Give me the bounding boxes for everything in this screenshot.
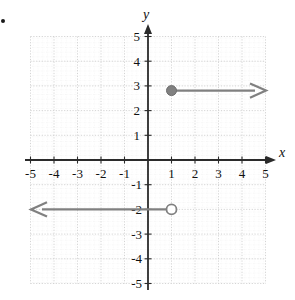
y-tick-label: -5 bbox=[131, 276, 142, 291]
x-tick-label: 4 bbox=[239, 166, 246, 181]
y-tick-label: 1 bbox=[134, 128, 141, 143]
coordinate-plane-chart: -5 -4 -3 -2 -1 1 2 3 4 5 5 4 3 2 1 -1 -2… bbox=[0, 0, 295, 300]
y-tick-label: -3 bbox=[131, 227, 142, 242]
open-endpoint-marker bbox=[167, 204, 177, 214]
y-tick-label: 4 bbox=[134, 54, 141, 69]
x-tick-label: -1 bbox=[119, 166, 130, 181]
x-tick-label: 3 bbox=[215, 166, 222, 181]
x-tick-label: -2 bbox=[96, 166, 107, 181]
x-tick-label: 1 bbox=[168, 166, 175, 181]
y-tick-label: 2 bbox=[134, 103, 141, 118]
x-tick-label: -5 bbox=[25, 166, 36, 181]
y-tick-label: -1 bbox=[131, 177, 142, 192]
x-tick-label: 2 bbox=[192, 166, 199, 181]
x-tick-label: 5 bbox=[262, 166, 269, 181]
y-tick-label: -4 bbox=[131, 251, 142, 266]
x-axis-label: x bbox=[278, 145, 286, 160]
y-tick-label: 5 bbox=[134, 29, 141, 44]
y-tick-label: 3 bbox=[134, 78, 141, 93]
x-tick-label: -4 bbox=[49, 166, 60, 181]
x-tick-label: -3 bbox=[72, 166, 83, 181]
closed-endpoint-marker bbox=[167, 86, 177, 96]
y-axis-label: y bbox=[141, 7, 150, 22]
